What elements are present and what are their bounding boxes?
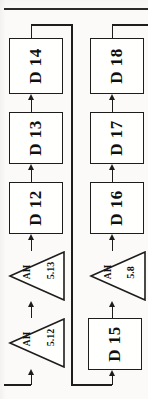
edge-ah512-to-ah513-head xyxy=(28,301,34,307)
node-ah-58-shape xyxy=(89,251,147,301)
node-d16-label: D 16 xyxy=(107,190,127,226)
edge-in-to-ah512-head xyxy=(28,369,34,375)
node-d14[interactable]: D 14 xyxy=(9,38,63,94)
edge-d13-to-d14-shaft xyxy=(31,98,33,112)
edge-d14-to-d15-shaft xyxy=(112,375,114,385)
node-ah-513-sublabel: 5.13 xyxy=(45,262,56,280)
edge-d15-to-ah58-head xyxy=(109,301,115,307)
node-ah-58-sublabel: 5.8 xyxy=(125,266,136,279)
node-ah-512[interactable]: AH 5.12 xyxy=(8,318,66,368)
edge-d17-to-d18-shaft xyxy=(112,98,114,112)
node-d18-label: D 18 xyxy=(107,48,127,84)
edge-d14-to-d15-gutter xyxy=(71,24,73,386)
edge-d14-to-d15-bottom-horizontal xyxy=(71,384,112,386)
edge-d16-to-d17-head xyxy=(109,164,115,170)
edge-ah58-to-d16-head xyxy=(109,234,115,240)
node-d17-label: D 17 xyxy=(107,120,127,156)
node-ah-58-label: AH xyxy=(103,265,113,279)
edge-d18-out-riser xyxy=(112,24,114,39)
edge-d14-to-d15-head xyxy=(109,370,115,376)
node-ah-513-label: AH xyxy=(22,265,32,279)
node-d12[interactable]: D 12 xyxy=(9,182,63,234)
node-d15-label: D 15 xyxy=(105,326,125,362)
edge-d12-to-d13-head xyxy=(28,164,34,170)
edge-d14-to-d15-top-horizontal xyxy=(31,24,73,26)
node-d12-label: D 12 xyxy=(26,190,46,226)
page-top-rule xyxy=(4,8,148,10)
node-ah-513-shape xyxy=(8,251,66,301)
node-ah-512-label: AH xyxy=(22,332,32,346)
node-d14-label: D 14 xyxy=(26,48,46,84)
edge-d13-to-d14-head xyxy=(28,94,34,100)
node-ah-58[interactable]: AH 5.8 xyxy=(89,251,147,301)
edge-d12-to-d13-shaft xyxy=(31,168,33,182)
node-d16[interactable]: D 16 xyxy=(90,182,144,234)
node-d13[interactable]: D 13 xyxy=(9,112,63,164)
node-d17[interactable]: D 17 xyxy=(90,112,144,164)
edge-in-to-ah512-shaft xyxy=(31,374,33,385)
edge-d14-to-d15-riser xyxy=(31,24,33,39)
edge-ah513-to-d12-head xyxy=(28,234,34,240)
node-d15[interactable]: D 15 xyxy=(88,318,142,370)
node-d13-label: D 13 xyxy=(26,120,46,156)
node-ah-512-shape xyxy=(8,318,66,368)
node-d18[interactable]: D 18 xyxy=(90,38,144,94)
node-ah-513[interactable]: AH 5.13 xyxy=(8,251,66,301)
diagram-page: D 14 D 13 D 12 AH 5.13 AH 5.12 xyxy=(0,0,148,399)
edge-in-to-ah512-horizontal xyxy=(4,384,31,386)
edge-d18-out-horizontal xyxy=(112,24,149,26)
node-ah-512-sublabel: 5.12 xyxy=(45,329,56,347)
edge-d17-to-d18-head xyxy=(109,94,115,100)
edge-d16-to-d17-shaft xyxy=(112,168,114,182)
